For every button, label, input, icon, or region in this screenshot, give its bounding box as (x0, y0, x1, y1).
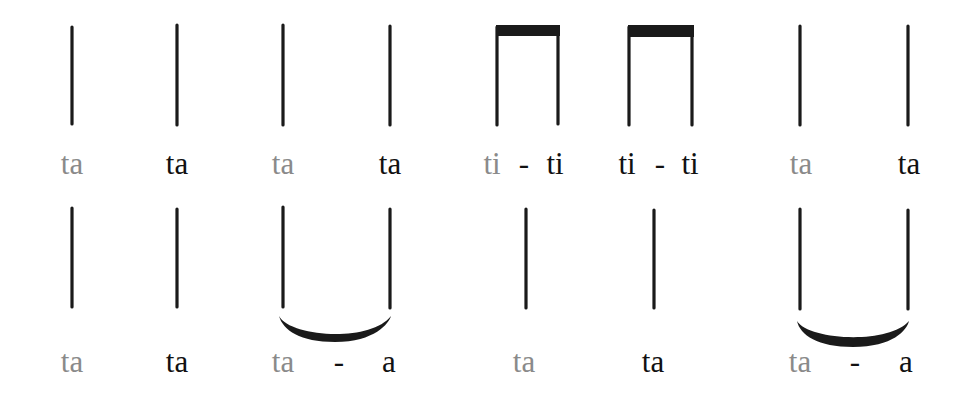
syllable-ti: ti (681, 148, 698, 179)
eighth-beam (496, 25, 560, 36)
syllable-ta: ta (379, 148, 401, 179)
syllable-ta: ta (898, 148, 920, 179)
syllable-a: a (382, 346, 396, 377)
syllable-ta: ta (789, 346, 811, 377)
syllable-ti: ti (618, 148, 635, 179)
syllable-dash: - (519, 148, 529, 179)
syllable-ta: ta (61, 346, 83, 377)
notation-graphics (0, 0, 966, 398)
syllable-dash: - (334, 346, 344, 377)
syllable-ta: ta (61, 148, 83, 179)
syllable-ta: ta (166, 346, 188, 377)
syllable-dash: - (850, 346, 860, 377)
syllable-dash: - (655, 148, 665, 179)
syllable-a: a (899, 346, 913, 377)
syllable-ta: ta (790, 148, 812, 179)
rhythm-notation-diagram: ta ta ta ta ti - ti ti - ti ta ta ta ta … (0, 0, 966, 398)
syllable-ta: ta (166, 148, 188, 179)
syllable-ti: ti (546, 148, 563, 179)
eighth-beam (628, 25, 694, 37)
syllable-ta: ta (513, 346, 535, 377)
syllable-ti: ti (483, 148, 500, 179)
tie-arc (279, 316, 391, 342)
syllable-ta: ta (272, 346, 294, 377)
syllable-ta: ta (642, 346, 664, 377)
syllable-ta: ta (272, 148, 294, 179)
